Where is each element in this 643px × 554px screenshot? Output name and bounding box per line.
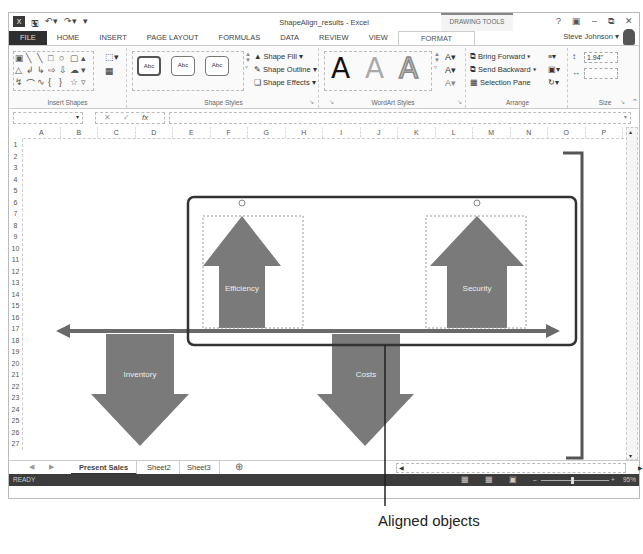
up-arrow-efficiency[interactable] xyxy=(203,200,303,328)
label-security: Security xyxy=(447,284,507,293)
up-arrow-security[interactable] xyxy=(426,200,526,328)
down-arrow-inventory[interactable] xyxy=(91,334,189,446)
label-efficiency: Efficiency xyxy=(212,284,272,293)
label-inventory: Inventory xyxy=(110,370,170,379)
callout-label: Aligned objects xyxy=(378,512,480,529)
label-costs: Costs xyxy=(336,370,396,379)
down-arrow-costs[interactable] xyxy=(317,334,414,446)
